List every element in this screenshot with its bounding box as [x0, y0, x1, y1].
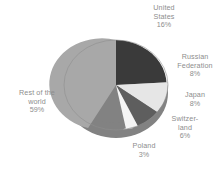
pie-label-value: 6%: [160, 132, 210, 141]
pie-label-value: 3%: [122, 151, 166, 160]
pie-chart: United States 16% Russian Federation 8% …: [0, 0, 224, 172]
pie-label-russian-federation: Russian Federation 8%: [166, 53, 224, 79]
pie-label-value: 16%: [136, 21, 192, 30]
pie-label-rest-of-the-world: Rest of the world 59%: [6, 89, 68, 115]
pie-label-value: 8%: [172, 100, 218, 109]
pie-label-poland: Poland 3%: [122, 142, 166, 159]
pie-label-switzerland: Switzer- land 6%: [160, 115, 210, 141]
pie-label-japan: Japan 8%: [172, 91, 218, 108]
pie-label-united-states: United States 16%: [136, 4, 192, 30]
pie-label-value: 8%: [166, 70, 224, 79]
pie-label-value: 59%: [6, 106, 68, 115]
